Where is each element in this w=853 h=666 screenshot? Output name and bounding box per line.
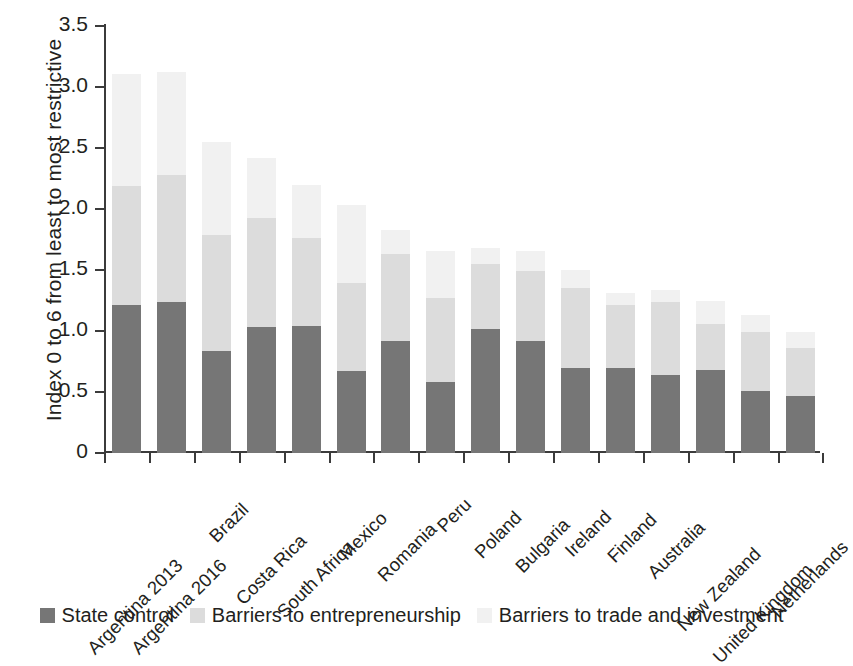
bar-segment-barriers-to-trade-and-investment [516,251,545,272]
bar-segment-state-control [112,305,141,453]
bar-segment-state-control [292,326,321,453]
bars-container [104,20,820,453]
x-tick-mark [508,453,510,463]
x-tick-mark [778,453,780,463]
bar-segment-barriers-to-entrepreneurship [337,283,366,371]
bar-costa-rica[interactable] [247,20,276,453]
bar-segment-state-control [471,329,500,453]
bar-segment-barriers-to-trade-and-investment [202,142,231,235]
x-tick-mark [194,453,196,463]
bar-mexico[interactable] [337,20,366,453]
bar-segment-barriers-to-trade-and-investment [606,293,635,305]
bar-new-zealand[interactable] [696,20,725,453]
x-tick-mark [733,453,735,463]
x-axis-label-peru: Peru [433,494,476,537]
x-axis-label-brazil: Brazil [205,499,253,547]
bar-segment-barriers-to-trade-and-investment [247,158,276,218]
legend-item-state-control[interactable]: State control [40,604,174,627]
bar-segment-state-control [696,370,725,453]
bar-segment-state-control [157,302,186,453]
legend-swatch-icon [477,608,492,623]
bar-segment-barriers-to-entrepreneurship [516,271,545,341]
bar-segment-state-control [561,368,590,453]
bar-segment-state-control [202,351,231,453]
bar-segment-barriers-to-entrepreneurship [606,305,635,367]
legend-swatch-icon [40,608,55,623]
x-tick-mark [463,453,465,463]
y-tick-label: 3.0 [30,73,88,97]
bar-segment-barriers-to-entrepreneurship [202,235,231,351]
x-tick-mark [239,453,241,463]
x-tick-mark [418,453,420,463]
x-tick-mark [822,453,824,463]
legend-item-barriers-to-entrepreneurship[interactable]: Barriers to entrepreneurship [190,604,461,627]
x-tick-mark [104,453,106,463]
bar-segment-barriers-to-entrepreneurship [426,298,455,382]
legend-item-barriers-to-trade-and-investment[interactable]: Barriers to trade and investment [477,604,784,627]
bar-segment-state-control [337,371,366,453]
y-tick-label: 2.5 [30,134,88,158]
bar-segment-barriers-to-trade-and-investment [786,332,815,348]
x-tick-mark [553,453,555,463]
x-tick-mark [373,453,375,463]
x-tick-mark [598,453,600,463]
bar-segment-barriers-to-trade-and-investment [741,315,770,332]
x-tick-mark [329,453,331,463]
bar-argentina-2016[interactable] [157,20,186,453]
bar-bulgaria[interactable] [516,20,545,453]
bar-poland[interactable] [471,20,500,453]
legend-swatch-icon [190,608,205,623]
bar-segment-barriers-to-entrepreneurship [696,324,725,370]
bar-netherlands[interactable] [786,20,815,453]
bar-segment-barriers-to-entrepreneurship [651,302,680,375]
bar-segment-barriers-to-entrepreneurship [112,186,141,306]
bar-segment-barriers-to-trade-and-investment [292,185,321,239]
y-tick-label: 1.0 [30,317,88,341]
legend-label: State control [62,604,174,627]
bar-australia[interactable] [651,20,680,453]
legend-label: Barriers to trade and investment [499,604,784,627]
bar-finland[interactable] [606,20,635,453]
bar-segment-barriers-to-entrepreneurship [157,175,186,302]
bar-segment-barriers-to-trade-and-investment [471,248,500,264]
bar-segment-barriers-to-entrepreneurship [741,332,770,391]
bar-segment-barriers-to-entrepreneurship [786,348,815,396]
bar-segment-barriers-to-entrepreneurship [381,254,410,341]
x-tick-mark [688,453,690,463]
bar-united-kingdom[interactable] [741,20,770,453]
bar-argentina-2013[interactable] [112,20,141,453]
y-tick-label: 0 [30,439,88,463]
bar-segment-barriers-to-entrepreneurship [247,218,276,328]
bar-segment-barriers-to-trade-and-investment [426,251,455,299]
x-tick-mark [284,453,286,463]
bar-brazil[interactable] [202,20,231,453]
bar-segment-barriers-to-trade-and-investment [112,74,141,186]
x-tick-mark [643,453,645,463]
bar-segment-barriers-to-trade-and-investment [337,205,366,283]
bar-segment-barriers-to-entrepreneurship [561,288,590,367]
bar-segment-barriers-to-trade-and-investment [651,290,680,302]
y-tick-label: 3.5 [30,12,88,36]
bar-segment-state-control [516,341,545,453]
bar-segment-barriers-to-trade-and-investment [157,72,186,174]
bar-segment-state-control [247,327,276,453]
legend-label: Barriers to entrepreneurship [212,604,461,627]
bar-segment-state-control [606,368,635,453]
bar-segment-state-control [741,391,770,453]
bar-segment-barriers-to-trade-and-investment [381,230,410,254]
bar-ireland[interactable] [561,20,590,453]
bar-segment-barriers-to-trade-and-investment [696,301,725,324]
bar-segment-state-control [426,382,455,453]
y-tick-label: 0.5 [30,378,88,402]
bar-segment-state-control [651,375,680,453]
bar-romania[interactable] [381,20,410,453]
x-tick-mark [149,453,151,463]
bar-south-africa[interactable] [292,20,321,453]
y-tick-label: 2.0 [30,195,88,219]
bar-segment-barriers-to-trade-and-investment [561,270,590,288]
bar-peru[interactable] [426,20,455,453]
bar-segment-barriers-to-entrepreneurship [292,238,321,326]
bar-segment-state-control [381,341,410,453]
chart-legend: State controlBarriers to entrepreneurshi… [0,604,823,627]
